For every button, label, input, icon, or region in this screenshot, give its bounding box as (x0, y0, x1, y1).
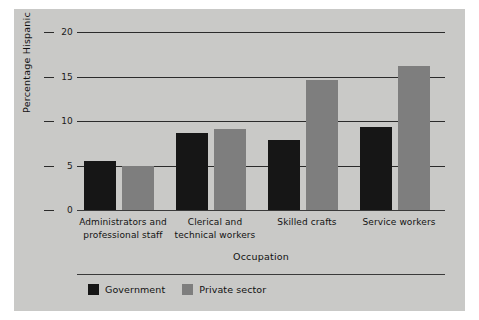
y-tick-mark (44, 32, 54, 33)
y-tick-label: 15 (61, 72, 73, 82)
bar-government (176, 133, 208, 210)
y-tick-label: 10 (61, 116, 73, 126)
bar-government (84, 161, 116, 210)
bar-private-sector (306, 80, 338, 210)
gridline (77, 121, 445, 122)
x-category-label-line: technical workers (157, 229, 273, 242)
legend-swatch-icon (182, 284, 193, 295)
y-tick-label: 0 (67, 205, 73, 215)
y-tick-mark (44, 121, 54, 122)
legend-label: Government (105, 284, 165, 295)
y-tick-label: 20 (61, 27, 73, 37)
y-axis-tick-labels: 05101520 (54, 32, 73, 210)
chart-figure: Percentage Hispanic 05101520 Administrat… (14, 9, 465, 311)
legend-label: Private sector (199, 284, 266, 295)
y-axis-title: Percentage Hispanic (21, 0, 32, 143)
gridline (77, 32, 445, 33)
y-tick-label: 5 (67, 161, 73, 171)
legend-item: Private sector (182, 284, 266, 295)
x-axis-title: Occupation (77, 251, 445, 262)
bar-private-sector (398, 66, 430, 210)
x-axis-category-labels: Administrators andprofessional staffCler… (77, 214, 445, 248)
legend-divider (77, 274, 445, 275)
x-category-label-line: Service workers (341, 216, 457, 229)
y-tick-mark (44, 166, 54, 167)
chart-legend: GovernmentPrivate sector (88, 284, 266, 295)
gridline (77, 77, 445, 78)
x-category-label: Service workers (341, 216, 457, 229)
axis-baseline (77, 210, 445, 211)
legend-item: Government (88, 284, 165, 295)
y-tick-mark (44, 210, 54, 211)
y-tick-mark (44, 77, 54, 78)
bar-private-sector (214, 129, 246, 210)
bar-government (268, 140, 300, 210)
plot-area (77, 32, 445, 210)
legend-swatch-icon (88, 284, 99, 295)
bar-government (360, 127, 392, 210)
bar-private-sector (122, 166, 154, 211)
